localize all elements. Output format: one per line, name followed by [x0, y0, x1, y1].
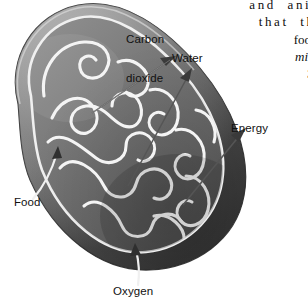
body-text-line-3: food. [214, 31, 308, 48]
label-oxygen: Oxygen [113, 285, 153, 298]
label-carbon-dioxide-line2: dioxide [126, 72, 164, 85]
label-carbon-dioxide-line1: Carbon [126, 33, 164, 46]
body-text-line-1: and anim [214, 0, 308, 13]
label-water: Water [172, 52, 203, 65]
label-carbon-dioxide: Carbon dioxide [126, 7, 164, 111]
label-food: Food [14, 196, 41, 209]
body-text-line-5: 3-8 [214, 66, 308, 83]
label-energy: Energy [231, 122, 268, 135]
mitochondrion-figure [0, 0, 240, 302]
body-text-line-6: ti [214, 83, 308, 100]
body-text-line-4: mitoc [214, 48, 308, 65]
body-text-line-2: that the [214, 13, 308, 30]
body-text-column: and anim that the food. mitoc 3-8 ti [214, 0, 308, 100]
page-root: Carbon dioxide Water Energy Food Oxygen … [0, 0, 308, 302]
